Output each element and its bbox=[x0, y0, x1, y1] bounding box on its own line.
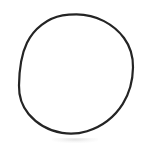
circle-outline bbox=[19, 14, 133, 133]
drawing-surface bbox=[0, 0, 142, 158]
circle-outline-svg bbox=[0, 0, 142, 158]
image-canvas bbox=[0, 0, 142, 158]
